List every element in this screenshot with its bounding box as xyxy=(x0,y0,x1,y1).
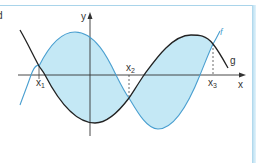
x2-label: x2 xyxy=(126,62,135,74)
curve-g-label: g xyxy=(230,55,236,66)
x-axis-arrow-icon xyxy=(239,73,246,78)
x3-label: x3 xyxy=(208,77,217,89)
y-axis-label: y xyxy=(81,11,86,22)
function-diagram: y x x1 x2 x3 f g xyxy=(0,0,263,163)
x-axis-label: x xyxy=(238,79,243,90)
curve-f-label: f xyxy=(220,27,224,37)
shaded-area xyxy=(39,32,213,129)
y-axis-arrow-icon xyxy=(88,12,93,19)
x1-label: x1 xyxy=(36,77,45,89)
